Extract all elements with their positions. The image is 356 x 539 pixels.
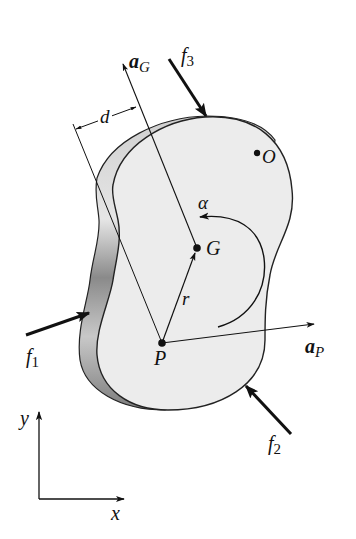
force-f2-label: f2 (268, 432, 281, 457)
point-O-label: O (262, 146, 276, 167)
y-axis-label: y (18, 407, 29, 430)
point-P-label: P (153, 347, 166, 369)
dimension-d-label: d (100, 106, 110, 127)
force-f1-label: f1 (26, 345, 39, 370)
aP-label: aP (305, 335, 324, 360)
force-f1-arrow (26, 313, 89, 335)
rigid-body-diagram: d f3 aG O α r G aP P f1 f2 y x (0, 0, 356, 539)
point-G-label: G (206, 237, 221, 259)
point-O (254, 150, 260, 156)
alpha-label: α (198, 192, 209, 213)
r-label: r (182, 288, 190, 309)
aG-label: aG (129, 50, 150, 75)
point-G (193, 244, 201, 252)
force-f3-label: f3 (181, 44, 194, 69)
force-f2-arrow (246, 386, 291, 434)
point-P (158, 339, 166, 347)
x-axis-label: x (110, 502, 120, 524)
